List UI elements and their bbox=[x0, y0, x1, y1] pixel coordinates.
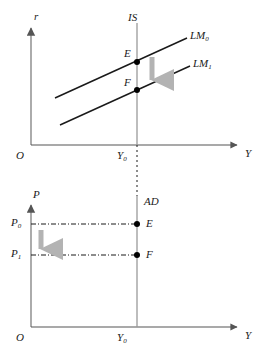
point-f-panel2 bbox=[134, 252, 140, 258]
point-label-f-panel2: F bbox=[146, 249, 153, 260]
curve-label-ad: AD bbox=[144, 196, 159, 207]
axis-label-y-panel2: Y bbox=[245, 330, 251, 341]
ytick-label-p0: P0 bbox=[11, 217, 21, 228]
point-e-panel2 bbox=[134, 221, 140, 227]
point-label-f-panel1: F bbox=[124, 77, 131, 88]
ytick-p1-sub: 1 bbox=[18, 253, 22, 261]
ytick-label-p1: P1 bbox=[11, 248, 21, 259]
curve-label-lm0: LM0 bbox=[190, 30, 209, 41]
axis-label-r: r bbox=[34, 11, 38, 22]
curve-label-lm0-base: LM bbox=[190, 29, 205, 41]
point-f-panel1 bbox=[134, 87, 140, 93]
axis-label-p: P bbox=[33, 189, 40, 200]
origin-label-panel2: O bbox=[16, 332, 24, 343]
point-e-panel1 bbox=[134, 59, 140, 65]
curve-lm0 bbox=[55, 38, 187, 98]
point-label-e-panel2: E bbox=[146, 218, 153, 229]
origin-label-panel1: O bbox=[16, 150, 24, 161]
ytick-p0-base: P bbox=[11, 216, 18, 228]
diagram-canvas bbox=[0, 0, 269, 360]
ytick-p1-base: P bbox=[11, 247, 18, 259]
point-label-e-panel1: E bbox=[124, 48, 131, 59]
xtick-y0-sub-panel2: 0 bbox=[123, 337, 127, 345]
ytick-p0-sub: 0 bbox=[18, 222, 22, 230]
curve-label-lm0-sub: 0 bbox=[205, 35, 209, 43]
xtick-label-y0-panel1: Y0 bbox=[117, 150, 127, 161]
panel-ad bbox=[31, 196, 237, 327]
diagram-root: r IS LM0 LM1 E F O Y0 Y P AD P0 P1 E F O… bbox=[0, 0, 269, 360]
curve-lm1 bbox=[60, 66, 190, 125]
axis-label-y-panel1: Y bbox=[245, 148, 251, 159]
curve-label-is: IS bbox=[128, 12, 137, 23]
panel-is-lm bbox=[31, 23, 237, 196]
curve-label-lm1-sub: 1 bbox=[208, 63, 212, 71]
xtick-y0-sub-panel1: 0 bbox=[123, 155, 127, 163]
curve-label-lm1: LM1 bbox=[193, 58, 212, 69]
curve-label-lm1-base: LM bbox=[193, 57, 208, 69]
xtick-label-y0-panel2: Y0 bbox=[117, 332, 127, 343]
